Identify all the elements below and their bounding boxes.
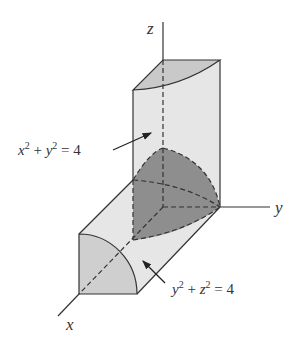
cylinder-intersection-diagram: z y x x2 + y2 = 4 y2 + z2 = 4 bbox=[0, 0, 298, 345]
x-axis bbox=[58, 294, 79, 316]
z-axis-label: z bbox=[146, 19, 154, 38]
cylinder1-equation: x2 + y2 = 4 bbox=[17, 140, 81, 158]
x-axis-label: x bbox=[65, 315, 74, 334]
cylinder2-equation: y2 + z2 = 4 bbox=[170, 279, 234, 297]
y-axis-label: y bbox=[273, 198, 283, 217]
